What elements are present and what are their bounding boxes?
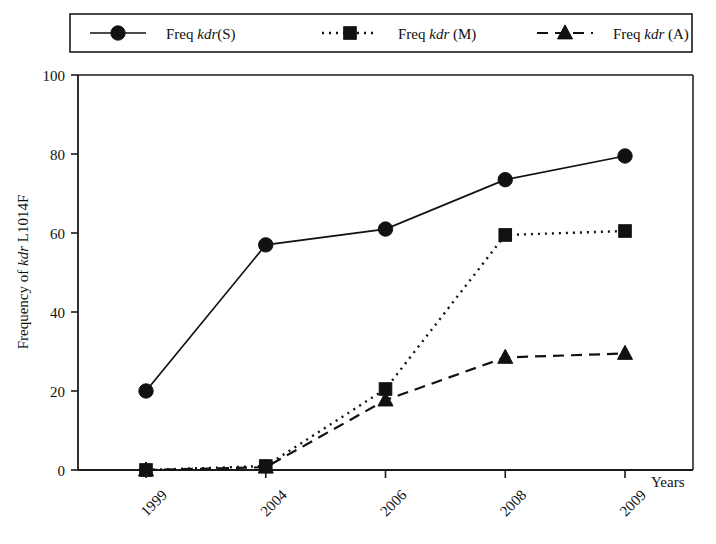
legend-item-label: Freq kdr (A): [613, 26, 689, 43]
figure-background: [0, 0, 716, 544]
y-tick-label: 0: [58, 463, 66, 479]
data-point-marker: [378, 222, 392, 236]
y-tick-label: 80: [50, 147, 65, 163]
y-axis-title: Frequency of kdr L1014F: [15, 195, 31, 350]
data-point-marker: [139, 384, 153, 398]
y-tick-label: 40: [50, 305, 65, 321]
data-point-marker: [498, 172, 512, 186]
chart-figure: Freq kdr(S)Freq kdr (M)Freq kdr (A) 0204…: [0, 0, 716, 544]
y-tick-label: 100: [43, 68, 66, 84]
legend-item-label: Freq kdr (M): [398, 26, 476, 43]
legend-marker-square-icon: [344, 27, 357, 40]
y-tick-label: 20: [50, 384, 65, 400]
y-tick-label: 60: [50, 226, 65, 242]
data-point-marker: [618, 149, 632, 163]
data-point-marker: [499, 229, 512, 242]
data-point-marker: [259, 238, 273, 252]
legend-marker-circle-icon: [111, 26, 125, 40]
data-point-marker: [619, 225, 632, 238]
legend-item-label: Freq kdr(S): [166, 26, 236, 43]
x-axis-title: Years: [651, 474, 685, 490]
